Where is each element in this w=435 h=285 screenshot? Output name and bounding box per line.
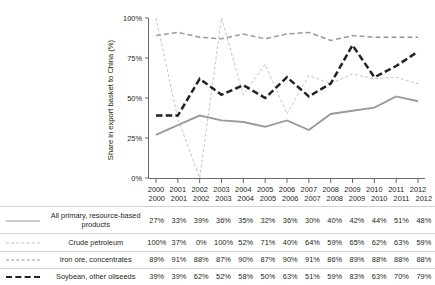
cell-2012: 88%	[413, 251, 435, 268]
cell-2004: 35%	[235, 207, 257, 234]
cell-2012: 59%	[413, 234, 435, 251]
cell-2009: 83%	[346, 268, 368, 285]
x-tick-label-2011: 2011	[388, 185, 404, 194]
series-name-label: Iron ore, concentrates	[46, 251, 146, 268]
legend-swatch-cell	[0, 268, 46, 285]
cell-2000: 100%	[146, 234, 168, 251]
cell-2012: 48%	[413, 207, 435, 234]
year-header-2003: 2003	[212, 194, 234, 207]
cell-2007: 91%	[301, 251, 323, 268]
cell-2007: 64%	[301, 234, 323, 251]
cell-2006: 40%	[279, 234, 301, 251]
cell-2007: 51%	[301, 268, 323, 285]
legend-swatch-cell	[0, 251, 46, 268]
year-header-2011: 2011	[390, 194, 412, 207]
table-corner-label	[46, 194, 146, 207]
year-header-2010: 2010	[368, 194, 390, 207]
year-header-2006: 2006	[279, 194, 301, 207]
cell-2011: 88%	[390, 251, 412, 268]
cell-2001: 39%	[168, 268, 190, 285]
cell-2005: 87%	[257, 251, 279, 268]
cell-2004: 52%	[235, 234, 257, 251]
cell-2009: 65%	[346, 234, 368, 251]
cell-2006: 90%	[279, 251, 301, 268]
series-name-label: Crude petroleum	[46, 234, 146, 251]
cell-2011: 63%	[390, 234, 412, 251]
y-axis-label: Share in export basket to China (%)	[106, 39, 115, 160]
year-header-2007: 2007	[301, 194, 323, 207]
cell-2010: 63%	[368, 268, 390, 285]
cell-2001: 33%	[168, 207, 190, 234]
x-tick-label-group: 2000200120022003200420052006200720082009…	[148, 185, 426, 194]
cell-2008: 59%	[324, 234, 346, 251]
cell-2003: 87%	[212, 251, 234, 268]
cell-2003: 100%	[212, 234, 234, 251]
chart-container: Share in export basket to China (%) 100%…	[0, 0, 435, 196]
legend-data-table: 2000 2001 2002 2003 2004 2005 2006 2007 …	[0, 194, 435, 285]
legend-data-table-container: 2000 2001 2002 2003 2004 2005 2006 2007 …	[0, 194, 435, 273]
cell-2010: 88%	[368, 251, 390, 268]
table-body: All primary, resource-basedproducts27%33…	[0, 207, 435, 285]
x-tick-label-2006: 2006	[279, 185, 295, 194]
year-header-2000: 2000	[146, 194, 168, 207]
cell-2000: 89%	[146, 251, 168, 268]
x-tick-label-2012: 2012	[410, 185, 426, 194]
y-tick-label-50: 50%	[127, 94, 142, 103]
cell-2002: 62%	[190, 268, 212, 285]
table-corner-cell	[0, 194, 46, 207]
x-tick-group	[156, 179, 418, 184]
cell-2006: 36%	[279, 207, 301, 234]
x-tick-label-2004: 2004	[235, 185, 251, 194]
y-tick-label-75: 75%	[127, 54, 142, 63]
series-line-0	[156, 96, 418, 134]
cell-2006: 63%	[279, 268, 301, 285]
legend-swatch-cell	[0, 234, 46, 251]
series-name-label: All primary, resource-basedproducts	[46, 207, 146, 234]
y-tick-label-0: 0%	[131, 174, 142, 183]
x-tick-label-2003: 2003	[213, 185, 229, 194]
table-row: Iron ore, concentrates89%91%88%87%90%87%…	[0, 251, 435, 268]
year-header-2004: 2004	[235, 194, 257, 207]
series-line-1	[156, 18, 418, 178]
table-row: All primary, resource-basedproducts27%33…	[0, 207, 435, 234]
cell-2001: 37%	[168, 234, 190, 251]
x-tick-label-2000: 2000	[148, 185, 164, 194]
x-tick-label-2007: 2007	[301, 185, 317, 194]
cell-2010: 44%	[368, 207, 390, 234]
cell-2009: 42%	[346, 207, 368, 234]
cell-2004: 90%	[235, 251, 257, 268]
series-line-2	[156, 32, 418, 40]
cell-2003: 52%	[212, 268, 234, 285]
year-header-2008: 2008	[324, 194, 346, 207]
legend-swatch-cell	[0, 207, 46, 234]
cell-2011: 70%	[390, 268, 412, 285]
cell-2003: 36%	[212, 207, 234, 234]
cell-2002: 0%	[190, 234, 212, 251]
cell-2008: 40%	[324, 207, 346, 234]
line-dotted-icon	[6, 241, 40, 245]
cell-2002: 88%	[190, 251, 212, 268]
year-header-2012: 2012	[413, 194, 435, 207]
cell-2009: 89%	[346, 251, 368, 268]
series-layer	[156, 18, 418, 178]
cell-2010: 62%	[368, 234, 390, 251]
cell-2012: 79%	[413, 268, 435, 285]
x-tick-label-2010: 2010	[366, 185, 382, 194]
year-header-2005: 2005	[257, 194, 279, 207]
y-tick-label-25: 25%	[127, 134, 142, 143]
year-header-2001: 2001	[168, 194, 190, 207]
x-axis: 2000200120022003200420052006200720082009…	[148, 179, 426, 194]
table-header-row: 2000 2001 2002 2003 2004 2005 2006 2007 …	[0, 194, 435, 207]
cell-2000: 39%	[146, 268, 168, 285]
cell-2001: 91%	[168, 251, 190, 268]
line-dashed-icon	[6, 258, 40, 262]
x-tick-label-2009: 2009	[344, 185, 360, 194]
line-chart: Share in export basket to China (%) 100%…	[0, 0, 435, 196]
cell-2002: 39%	[190, 207, 212, 234]
cell-2008: 59%	[324, 268, 346, 285]
cell-2008: 86%	[324, 251, 346, 268]
y-axis: 100% 75% 50% 25% 0%	[123, 14, 148, 183]
cell-2000: 27%	[146, 207, 168, 234]
y-tick-label-100: 100%	[123, 14, 142, 23]
cell-2011: 51%	[390, 207, 412, 234]
